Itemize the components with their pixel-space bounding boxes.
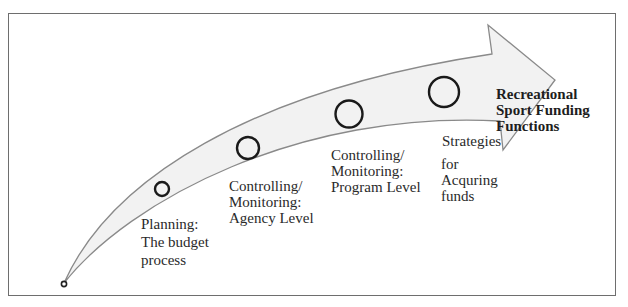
stage-label-agency-level: Controlling/ Monitoring: Agency Level	[229, 178, 314, 226]
stage-label-strategies-line1: Strategies	[442, 133, 501, 149]
stage-label-program-level: Controlling/ Monitoring: Program Level	[331, 147, 421, 195]
diagram-title: Recreational Sport Funding Functions	[496, 86, 590, 134]
stage-label-strategies-rest: for Acquring funds	[441, 156, 498, 204]
origin-dot	[61, 281, 66, 286]
stage-label-planning: Planning: The budget process	[141, 215, 209, 269]
curved-arrow	[64, 25, 555, 283]
diagram-canvas	[0, 0, 628, 307]
